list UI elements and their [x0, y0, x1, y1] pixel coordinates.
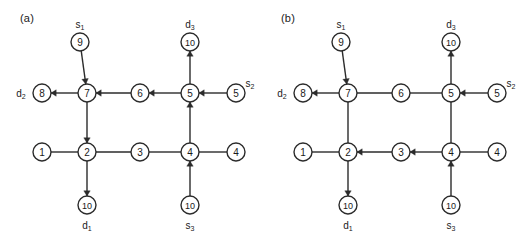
node-n7[interactable]: 7 [339, 84, 357, 102]
node-value: 10 [185, 201, 195, 211]
node-value: 6 [137, 88, 143, 99]
node-n1[interactable]: 1 [294, 143, 312, 161]
edge-n2-n10d1 [84, 161, 90, 196]
edge-n5-n10d3 [187, 51, 193, 84]
arrowhead-n5s-n5 [460, 90, 465, 96]
panel-a: (a) 9s18d27655s210d31234410d110s3 [0, 0, 261, 239]
edge-n5s-n5 [460, 90, 488, 96]
node-external-label-s2: s2 [507, 78, 516, 90]
edge-n10s3-n4 [187, 161, 193, 196]
edge-n7-n8 [312, 90, 339, 96]
node-value: 9 [77, 37, 83, 48]
edge-n7-n8 [51, 90, 78, 96]
arrowhead-n2-n10d1 [84, 191, 90, 196]
node-value: 5 [494, 88, 500, 99]
node-value: 9 [338, 37, 344, 48]
node-external-label-s3: s3 [447, 220, 456, 232]
node-n1[interactable]: 1 [33, 143, 51, 161]
node-n6[interactable]: 6 [131, 84, 149, 102]
edge-n5-n10d3 [448, 51, 454, 84]
node-n3[interactable]: 3 [392, 143, 410, 161]
node-value: 7 [345, 88, 351, 99]
node-n3[interactable]: 3 [131, 143, 149, 161]
node-n10d1[interactable]: 10 [78, 196, 96, 214]
arrowhead-n7-n2 [84, 138, 90, 143]
panel-a-graph: 9s18d27655s210d31234410d110s3 [0, 0, 261, 239]
node-value: 3 [398, 147, 404, 158]
node-value: 10 [343, 201, 353, 211]
node-value: 10 [446, 201, 456, 211]
node-external-label-d3: d3 [185, 19, 195, 31]
edge-n4-n3 [410, 149, 442, 155]
node-n2[interactable]: 2 [78, 143, 96, 161]
panel-b-graph: 9s18d27655s210d31234410d110s3 [261, 0, 522, 239]
node-n10d1[interactable]: 10 [339, 196, 357, 214]
node-value: 8 [39, 88, 45, 99]
node-value: 2 [345, 147, 351, 158]
node-value: 4 [187, 147, 193, 158]
node-value: 4 [448, 147, 454, 158]
node-value: 2 [84, 147, 90, 158]
node-n2[interactable]: 2 [339, 143, 357, 161]
node-n7[interactable]: 7 [78, 84, 96, 102]
node-n5[interactable]: 5 [181, 84, 199, 102]
arrowhead-n5-n10d3 [187, 51, 193, 56]
edge-n9-n7 [81, 51, 88, 84]
edge-n3-n2 [357, 149, 392, 155]
node-value: 7 [84, 88, 90, 99]
arrowhead-n4-n3 [410, 149, 415, 155]
node-n9[interactable]: 9 [332, 33, 350, 51]
node-external-label-d2: d2 [16, 88, 26, 100]
node-external-label-d3: d3 [446, 19, 456, 31]
edge-n2-n10d1 [345, 161, 351, 196]
node-n4r[interactable]: 4 [227, 143, 245, 161]
edge-n7-n2 [84, 102, 90, 143]
node-n5[interactable]: 5 [442, 84, 460, 102]
node-value: 10 [185, 38, 195, 48]
node-external-label-s3: s3 [186, 220, 195, 232]
node-n10s3[interactable]: 10 [442, 196, 460, 214]
arrowhead-n6-n7 [96, 90, 101, 96]
arrowhead-n2-n10d1 [345, 191, 351, 196]
node-n4r[interactable]: 4 [488, 143, 506, 161]
node-n8[interactable]: 8 [33, 84, 51, 102]
node-external-label-s1: s1 [337, 19, 346, 31]
arrowhead-n7-n8 [312, 90, 317, 96]
panel-b: (b) 9s18d27655s210d31234410d110s3 [261, 0, 522, 239]
arrowhead-n7-n8 [51, 90, 56, 96]
edge-n6-n7 [96, 90, 131, 96]
node-external-label-d1: d1 [343, 220, 353, 232]
node-n4[interactable]: 4 [442, 143, 460, 161]
node-n4[interactable]: 4 [181, 143, 199, 161]
node-n10d3[interactable]: 10 [181, 33, 199, 51]
node-n10d3[interactable]: 10 [442, 33, 460, 51]
node-value: 5 [233, 88, 239, 99]
arrowhead-n4-n5 [187, 102, 193, 107]
node-n5s[interactable]: 5 [227, 84, 245, 102]
edge-n4-n5 [187, 102, 193, 143]
node-value: 3 [137, 147, 143, 158]
node-value: 5 [448, 88, 454, 99]
edge-n9-n7 [342, 51, 349, 84]
node-n9[interactable]: 9 [71, 33, 89, 51]
arrowhead-n10s3-n4 [448, 161, 454, 166]
node-value: 4 [233, 147, 239, 158]
node-value: 10 [446, 38, 456, 48]
arrowhead-n5-n10d3 [448, 51, 454, 56]
node-value: 10 [82, 201, 92, 211]
node-value: 6 [398, 88, 404, 99]
arrowhead-n9-n7 [343, 78, 349, 84]
node-n8[interactable]: 8 [294, 84, 312, 102]
edge-n10s3-n4 [448, 161, 454, 196]
node-external-label-d1: d1 [82, 220, 92, 232]
node-external-label-d2: d2 [277, 88, 287, 100]
node-n6[interactable]: 6 [392, 84, 410, 102]
figure-root: (a) 9s18d27655s210d31234410d110s3 (b) 9s… [0, 0, 522, 239]
edge-n5s-n5 [199, 90, 227, 96]
arrowhead-n9-n7 [82, 78, 88, 84]
node-n5s[interactable]: 5 [488, 84, 506, 102]
arrowhead-n5-n6 [149, 90, 154, 96]
arrowhead-n5s-n5 [199, 90, 204, 96]
node-value: 4 [494, 147, 500, 158]
node-n10s3[interactable]: 10 [181, 196, 199, 214]
